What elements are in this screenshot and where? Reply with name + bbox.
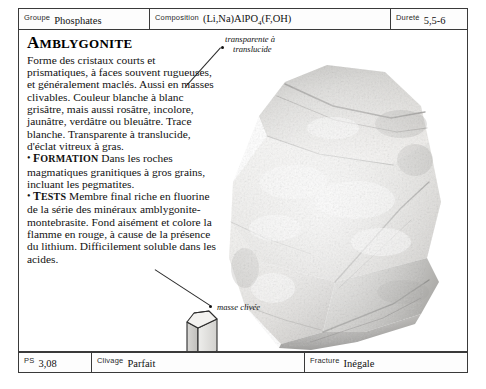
triclinic-crystal-icon xyxy=(178,308,226,352)
footer-label-fracture: Fracture xyxy=(310,356,340,365)
footer-value-ps: 3,08 xyxy=(38,358,56,369)
section-tests: • TESTS Membre final riche en fluorine d… xyxy=(27,190,217,265)
section-tests-keyword: TESTS xyxy=(33,191,66,202)
footer-field-fracture: Fracture Inégale xyxy=(305,353,467,372)
page-title: AMBLYGONITE xyxy=(27,34,217,52)
header-label-durete: Dureté xyxy=(396,13,420,22)
header-value-composition: (Li,Na)AlPO4(F,OH) xyxy=(203,13,291,27)
header-value-groupe: Phosphates xyxy=(54,15,101,26)
footer-field-ps: PS 3,08 xyxy=(19,353,91,372)
header-label-groupe: Groupe xyxy=(24,13,50,22)
annotation-clivage-leader xyxy=(155,269,211,306)
footer-row: PS 3,08 Clivage Parfait Fracture Inégale xyxy=(18,352,468,373)
bullet-formation: • xyxy=(27,152,33,163)
footer-field-clivage: Clivage Parfait xyxy=(92,353,304,372)
mineral-reference-card: Groupe Phosphates Composition (Li,Na)AlP… xyxy=(18,8,468,374)
header-field-composition: Composition (Li,Na)AlPO4(F,OH) xyxy=(150,9,390,29)
annotation-transparence-line2: translucide xyxy=(233,44,272,54)
card-body: transparente à translucide masse clivée … xyxy=(18,30,468,352)
section-formation: • FORMATION Dans les roches magmatiques … xyxy=(27,152,217,190)
header-field-groupe: Groupe Phosphates xyxy=(19,9,149,29)
page-title-initial: A xyxy=(27,33,40,52)
annotation-transparence-line1: transparente à xyxy=(225,34,275,44)
header-value-durete: 5,5-6 xyxy=(424,15,446,26)
footer-label-ps: PS xyxy=(24,356,34,365)
page-title-rest: MBLYGONITE xyxy=(40,36,133,51)
annotation-transparence-text: transparente à translucide xyxy=(225,34,275,54)
bullet-tests: • xyxy=(27,190,33,201)
header-row: Groupe Phosphates Composition (Li,Na)AlP… xyxy=(18,8,468,30)
footer-label-clivage: Clivage xyxy=(97,356,123,365)
crystal-system-diagram: TRICLINIQUE xyxy=(171,308,233,352)
footer-value-clivage: Parfait xyxy=(127,358,155,369)
description-column: AMBLYGONITE Forme des cristaux courts et… xyxy=(27,34,217,265)
header-label-composition: Composition xyxy=(155,13,199,22)
header-field-durete: Dureté 5,5-6 xyxy=(391,9,467,29)
description-paragraph: Forme des cristaux courts et prismatique… xyxy=(27,54,217,152)
footer-value-fracture: Inégale xyxy=(344,358,375,369)
section-formation-keyword: FORMATION xyxy=(33,153,98,164)
